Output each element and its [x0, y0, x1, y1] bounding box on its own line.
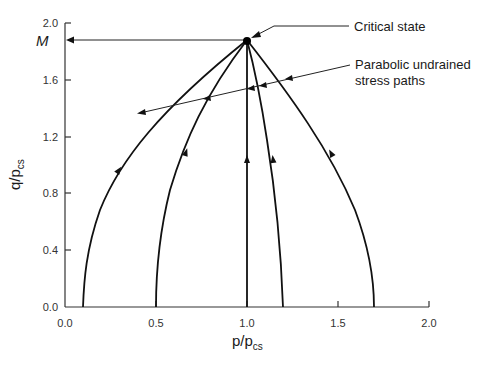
parabolic-arrowhead-icon: [285, 75, 293, 81]
critical-state-label: Critical state: [354, 19, 426, 34]
parabolic-leader: [140, 65, 350, 113]
x-axis-title-sub: cs: [253, 341, 263, 352]
critical-state-arrowhead-icon: [251, 31, 261, 38]
x-tick-label: 1.5: [330, 317, 345, 329]
y-tick-labels: 2.0 1.6 1.2 0.8 0.4 0.0: [43, 17, 58, 313]
x-axis-title: p/pcs: [232, 332, 263, 352]
x-tick-label: 1.0: [239, 317, 254, 329]
critical-state-leader: [253, 26, 349, 37]
x-tick-label: 2.0: [421, 317, 436, 329]
y-tick-label: 1.2: [43, 131, 58, 143]
y-axis-title-sub: cs: [15, 159, 26, 169]
critical-state-point: [243, 37, 251, 45]
direction-arrows: [114, 147, 335, 175]
x-axis-title-main: p/p: [232, 332, 253, 349]
parabolic-arrowhead-icon: [259, 82, 267, 88]
parabolic-label-line1: Parabolic undrained: [355, 57, 471, 72]
m-arrowhead-icon: [66, 37, 74, 44]
stress-path-diagram: 2.0 1.6 1.2 0.8 0.4 0.0 0.0 0.5 1.0 1.5 …: [0, 0, 484, 366]
x-tick-label: 0.0: [57, 317, 72, 329]
x-tick-labels: 0.0 0.5 1.0 1.5 2.0: [57, 317, 436, 329]
y-axis-title-main: q/p: [6, 169, 23, 190]
x-tick-label: 0.5: [148, 317, 163, 329]
stress-path-0.1: [83, 40, 247, 307]
y-tick-label: 0.8: [43, 187, 58, 199]
parabolic-label-line2: stress paths: [355, 73, 426, 88]
y-tick-label: 0.0: [43, 301, 58, 313]
arrow-up-icon: [244, 155, 250, 163]
stress-path-0.5: [156, 40, 247, 307]
parabolic-arrowhead-icon: [137, 109, 146, 115]
y-axis-title: q/pcs: [6, 159, 26, 190]
m-label: M: [36, 32, 49, 49]
y-tick-label: 1.6: [43, 74, 58, 86]
y-tick-label: 0.4: [43, 244, 58, 256]
y-tick-label: 2.0: [43, 17, 58, 29]
stress-paths: [83, 40, 374, 307]
